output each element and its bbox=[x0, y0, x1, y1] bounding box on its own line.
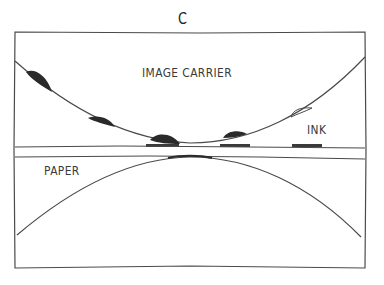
paper-label: PAPER bbox=[44, 163, 80, 178]
ink-label: INK bbox=[307, 122, 326, 137]
ink-blob-1 bbox=[26, 71, 52, 92]
ink-blob-2 bbox=[88, 116, 115, 127]
diagram-canvas bbox=[0, 0, 384, 285]
ink-deposit-3 bbox=[292, 144, 322, 147]
image-carrier-label: IMAGE CARRIER bbox=[142, 65, 232, 80]
panel-label: C bbox=[178, 9, 187, 28]
ink-blob-3 bbox=[150, 134, 180, 144]
ink-blob-4 bbox=[223, 131, 247, 138]
